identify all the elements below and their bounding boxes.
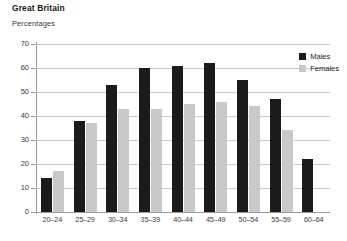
x-axis-line xyxy=(36,212,330,213)
x-axis-tick-label: 40–44 xyxy=(167,215,200,224)
bar-male xyxy=(139,68,150,212)
bar-male xyxy=(74,121,85,212)
bar-female xyxy=(118,109,129,212)
x-axis-tick-label: 55–59 xyxy=(265,215,298,224)
bar-male xyxy=(204,63,215,212)
y-axis-tick-mark xyxy=(31,212,36,213)
legend-swatch-icon xyxy=(299,65,306,72)
bar-female xyxy=(249,106,260,212)
bar-group xyxy=(69,44,102,212)
x-axis-tick-label: 30–34 xyxy=(101,215,134,224)
bar-female xyxy=(216,102,227,212)
x-axis-tick-label: 25–29 xyxy=(69,215,102,224)
y-axis-tick-labels: 010203040506070 xyxy=(0,0,29,241)
bar-group xyxy=(265,44,298,212)
bar-group xyxy=(36,44,69,212)
chart-container: Great Britain Percentages 01020304050607… xyxy=(0,0,347,241)
bar-female xyxy=(151,109,162,212)
x-axis-tick-label: 35–39 xyxy=(134,215,167,224)
y-axis-tick-mark xyxy=(31,116,36,117)
y-axis-tick-label: 40 xyxy=(3,111,29,120)
y-axis-tick-label: 0 xyxy=(3,207,29,216)
y-axis-tick-label: 10 xyxy=(3,183,29,192)
bar-group xyxy=(101,44,134,212)
bar-female xyxy=(184,104,195,212)
bar-male xyxy=(270,99,281,212)
x-axis-tick-labels: 20–2425–2930–3435–3940–4445–4950–5455–59… xyxy=(36,215,330,224)
y-axis-tick-mark xyxy=(31,44,36,45)
legend-label: Females xyxy=(310,64,339,73)
y-axis-tick-mark xyxy=(31,164,36,165)
bar-group xyxy=(134,44,167,212)
y-axis-tick-label: 30 xyxy=(3,135,29,144)
x-axis-tick-label: 20–24 xyxy=(36,215,69,224)
bar-female xyxy=(86,123,97,212)
x-axis-tick-label: 45–49 xyxy=(199,215,232,224)
bar-group xyxy=(167,44,200,212)
y-axis-tick-label: 50 xyxy=(3,87,29,96)
bar-female xyxy=(53,171,64,212)
bar-male xyxy=(302,159,313,212)
legend-swatch-icon xyxy=(299,53,306,60)
legend: MalesFemales xyxy=(299,52,339,73)
y-axis-tick-label: 60 xyxy=(3,63,29,72)
x-axis-tick-label: 50–54 xyxy=(232,215,265,224)
bar-groups xyxy=(36,44,330,212)
y-axis-tick-mark xyxy=(31,68,36,69)
bar-male xyxy=(172,66,183,212)
bar-group xyxy=(232,44,265,212)
legend-item-females[interactable]: Females xyxy=(299,64,339,73)
bar-group xyxy=(199,44,232,212)
y-axis-tick-mark xyxy=(31,92,36,93)
bar-male xyxy=(237,80,248,212)
y-axis-tick-mark xyxy=(31,188,36,189)
legend-item-males[interactable]: Males xyxy=(299,52,339,61)
bar-male xyxy=(41,178,52,212)
x-axis-tick-label: 60–64 xyxy=(297,215,330,224)
y-axis-tick-mark xyxy=(31,140,36,141)
y-axis-tick-label: 20 xyxy=(3,159,29,168)
y-axis-tick-label: 70 xyxy=(3,39,29,48)
legend-label: Males xyxy=(310,52,330,61)
bar-male xyxy=(106,85,117,212)
bar-female xyxy=(282,130,293,212)
